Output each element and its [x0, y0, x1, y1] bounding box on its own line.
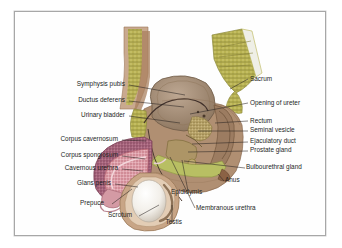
label-ductus-deferens: Ductus deferens — [78, 96, 125, 103]
label-symphysis-pubis: Symphysis pubis — [77, 80, 125, 87]
label-ejaculatory-duct: Ejaculatory duct — [250, 137, 296, 144]
label-epididymis: Epididymis — [171, 188, 202, 195]
label-cavernous-urethra: Cavernous urethra — [65, 164, 118, 171]
label-prepuce: Prepuce — [80, 199, 104, 206]
label-opening-of-ureter: Opening of ureter — [250, 99, 300, 106]
label-glans-penis: Glans penis — [77, 179, 111, 186]
label-testis: Testis — [166, 218, 182, 225]
opening-of-ureter-shape — [203, 115, 206, 118]
label-membranous-urethra: Membranous urethra — [196, 204, 256, 211]
label-scrotum: Scrotum — [108, 211, 132, 218]
label-rectum: Rectum — [250, 117, 272, 124]
label-anus: Anus — [225, 176, 240, 183]
label-prostate-gland: Prostate gland — [250, 146, 292, 153]
label-bulbourethral-gland: Bulbourethral gland — [246, 163, 302, 170]
label-corpus-spongiosum: Corpus spongiosum — [61, 151, 118, 158]
figure-frame: Symphysis pubis Ductus deferens Urinary … — [14, 11, 326, 236]
label-corpus-cavernosum: Corpus cavernosum — [60, 135, 118, 142]
testis-shape — [132, 180, 166, 222]
label-sacrum: Sacrum — [250, 75, 272, 82]
symphysis-pubis-shape — [130, 109, 146, 139]
opening-of-ureter-shape-2 — [197, 111, 199, 113]
anatomy-illustration — [16, 13, 324, 234]
label-seminal-vesicle: Seminal vesicle — [250, 126, 295, 133]
figure-canvas: Symphysis pubis Ductus deferens Urinary … — [0, 0, 342, 248]
figure-frame-inner: Symphysis pubis Ductus deferens Urinary … — [16, 13, 324, 234]
label-urinary-bladder: Urinary bladder — [81, 111, 125, 118]
